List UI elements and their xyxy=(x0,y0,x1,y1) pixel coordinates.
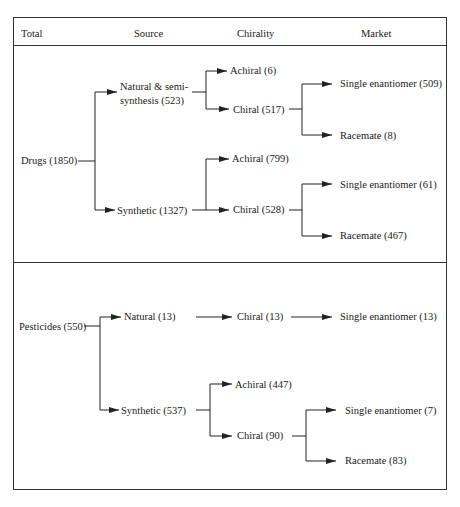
connector-lines xyxy=(0,0,460,507)
